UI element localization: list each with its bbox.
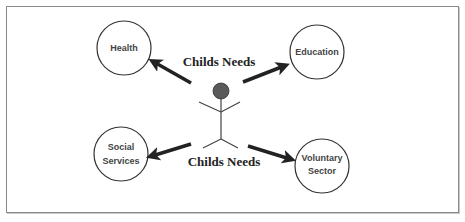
figure-head [213,83,229,99]
node-social-services-label-line1: Social [108,142,135,152]
stick-figure-icon [199,83,240,148]
node-health: Health [97,21,151,75]
node-social-services: Social Services [94,127,148,181]
childs-needs-label-bottom: Childs Needs [188,154,261,169]
arrow-to-social-services [152,144,191,156]
node-education: Education [290,25,344,79]
childs-needs-diagram: Health Education Social Services Volunta… [0,0,465,222]
node-voluntary-sector-label-line2: Sector [308,166,337,176]
node-health-label: Health [110,43,138,53]
node-voluntary-sector: Voluntary Sector [295,139,349,193]
node-education-label: Education [295,47,339,57]
node-social-services-label-line2: Services [102,156,139,166]
node-voluntary-sector-label-line1: Voluntary [302,153,343,163]
childs-needs-label-top: Childs Needs [183,54,256,69]
